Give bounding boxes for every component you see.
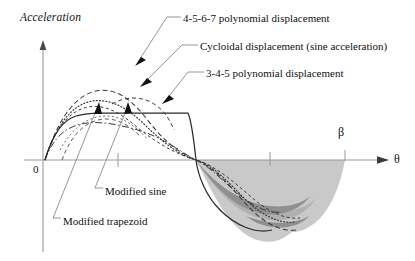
leader-3-4-5 xyxy=(166,72,204,100)
y-axis-title: Acceleration xyxy=(20,11,81,23)
y-axis-arrowhead xyxy=(40,40,47,50)
leader-modified-trapezoid xyxy=(53,108,97,218)
callout-label-modified-sine: Modified sine xyxy=(105,185,166,197)
curve-crown-arc-c xyxy=(60,116,148,150)
curve-crown-arc-a xyxy=(62,119,140,160)
x-axis-arrowhead xyxy=(377,156,389,164)
arrowhead-cycloidal xyxy=(140,78,152,87)
leader-4-5-6-7 xyxy=(138,17,181,62)
callout-label-3-4-5-polynomial: 3-4-5 polynomial displacement xyxy=(206,67,343,79)
arrowhead-3-4-5 xyxy=(162,95,174,104)
arrowhead-4-5-6-7 xyxy=(135,57,146,66)
callout-label-modified-trapezoid: Modified trapezoid xyxy=(63,215,148,227)
callout-label-4-5-6-7-polynomial: 4-5-6-7 polynomial displacement xyxy=(183,12,330,24)
origin-label: 0 xyxy=(33,163,39,175)
arrowhead-modified-sine xyxy=(124,102,132,114)
arrowhead-modified-trapezoid xyxy=(94,102,102,114)
x-axis-title: θ xyxy=(394,152,400,167)
leader-cycloidal xyxy=(144,45,198,83)
beta-label: β xyxy=(338,125,344,140)
shaded-regions xyxy=(196,160,345,242)
callout-label-cycloidal: Cycloidal displacement (sine acceleratio… xyxy=(200,40,387,52)
acceleration-diagram-figure: Acceleration 4-5-6-7 polynomial displace… xyxy=(0,0,415,261)
